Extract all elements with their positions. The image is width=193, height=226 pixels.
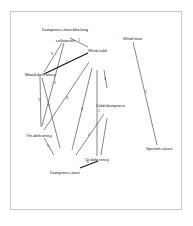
edge-dhbc-yin — [42, 43, 64, 126]
edge-label: 5 — [104, 77, 106, 81]
edge-label: 2 — [88, 133, 90, 137]
edge-label: 3 — [48, 104, 50, 108]
node-wind-cold: Wind-cold — [88, 48, 107, 53]
node-dampness-heat: Dampness-heat — [50, 170, 80, 175]
network-graph: 1 3 2 1 3 4 1 3 5 5 2 1 1 1 Dampness-hea… — [0, 0, 193, 226]
node-wind-heat: Wind-heat — [123, 36, 143, 41]
node-cold-dampness: Cold-dampness — [96, 103, 125, 108]
edge-labels: 1 3 2 1 3 4 1 3 5 5 2 1 1 1 — [38, 38, 147, 164]
node-dampness-heat-blocking-collaterals-line2: collaterals — [56, 38, 75, 43]
edge-label: 1 — [78, 38, 80, 42]
node-blood-deficiency: Blood deficiency — [25, 72, 56, 77]
edge-label: 3 — [51, 52, 53, 56]
edge-label: 4 — [81, 107, 83, 111]
edge-dhbc-blood — [44, 43, 62, 72]
edge-label: 3 — [66, 96, 68, 100]
edge-label: 1 — [98, 109, 100, 113]
edge-colddamp-dampheat — [76, 114, 104, 155]
edge-label: 1 — [38, 98, 40, 102]
node-dampness-heat-blocking-collaterals: Dampness-heat blocking — [42, 27, 89, 32]
edge-yin-dampheat — [44, 138, 54, 155]
node-yin-deficiency: Yin-deficiency — [26, 133, 53, 138]
edge-label: 5 — [47, 144, 49, 148]
edge-label: 2 — [54, 81, 56, 85]
nodes: Dampness-heat blocking collaterals Wind-… — [25, 27, 173, 175]
edge-colddamp-qi-2 — [101, 118, 107, 155]
edge-blood-yin — [40, 76, 41, 127]
edge-label: 1 — [66, 60, 68, 64]
node-sputum-stasis: Sputum-stasis — [146, 146, 173, 151]
edge-qi-dampheat — [80, 161, 98, 168]
edge-label: 1 — [145, 90, 147, 94]
node-qi-deficiency: Qi deficiency — [85, 157, 110, 162]
